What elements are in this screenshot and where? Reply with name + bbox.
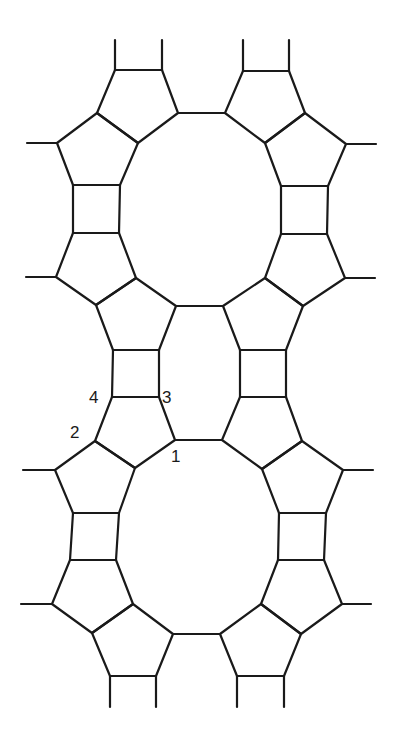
square-lower-right [278,513,326,560]
atom-labels: 4 3 2 1 [70,388,180,466]
pentagon-bottom-left [92,604,173,676]
label-1: 1 [171,447,180,466]
pentagon-top-right [225,71,305,143]
pentagon-lower-right [261,560,342,634]
framework-diagram: 4 3 2 1 [0,0,393,736]
pentagon-mid-lower-right-a [222,397,302,469]
square-middle-right [240,350,286,397]
square-middle-left [112,350,159,397]
square-lower-left [70,513,119,560]
pentagon-upper-right [265,113,346,186]
pentagon-mid-upper-right-b [223,278,303,350]
label-3: 3 [162,388,171,407]
label-4: 4 [89,388,98,407]
pentagon-mid-lower-right-b [262,441,343,513]
pentagon-mid-upper-right-a [265,234,345,306]
pentagon-mid-lower-left-b [55,441,135,513]
square-upper-right [281,186,328,234]
pentagon-top-left [97,70,178,143]
pentagon-mid-upper-left-b [96,278,176,350]
pentagon-mid-upper-left-a [56,233,136,305]
pentagon-upper-left [57,113,138,185]
square-upper-left [73,185,120,233]
pentagon-lower-left [52,560,133,633]
pentagon-bottom-right [220,604,301,676]
pentagon-mid-lower-left-a [95,397,175,468]
bonds [21,40,376,707]
label-2: 2 [70,423,79,442]
